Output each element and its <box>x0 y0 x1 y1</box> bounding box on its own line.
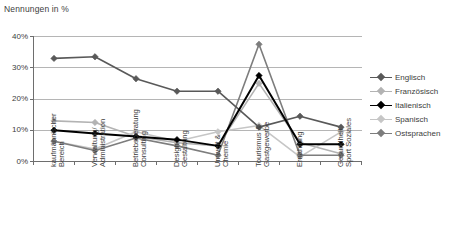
legend-diamond-marker-icon <box>377 129 385 137</box>
legend-diamond-marker-icon <box>377 115 385 123</box>
x-tick-label-line2: Chemie <box>222 134 230 167</box>
x-tick-label: BetriebsberatungConsulting <box>132 109 149 167</box>
chart-container: Nennungen in % 0%10%20%30%40% kaufmännis… <box>0 0 453 251</box>
legend-item-spanisch[interactable]: Spanisch <box>370 112 452 126</box>
legend-label: Englisch <box>392 73 425 82</box>
legend-diamond-marker-icon <box>377 101 385 109</box>
x-tick-label: kaufmännischerBereich <box>50 113 67 167</box>
legend-label: Italienisch <box>392 101 431 110</box>
x-tick-label-line2: Gastgewerbe <box>263 121 271 166</box>
x-tick-label-line1: Ernährung <box>296 131 304 166</box>
x-tick-label: Design/Gestaltung <box>173 130 190 167</box>
x-tick-label: Verwaltung/Administration <box>91 118 108 166</box>
legend-label: Französisch <box>392 87 438 96</box>
x-tick-label: Ernährung <box>296 131 304 166</box>
legend-item-französisch[interactable]: Französisch <box>370 84 452 98</box>
legend-swatch-icon <box>370 73 392 82</box>
legend-swatch-icon <box>370 101 392 110</box>
x-tick-label-line2: Sport Soziales <box>345 118 353 167</box>
x-tick-label-line2: Bereich <box>58 113 66 167</box>
legend-item-englisch[interactable]: Englisch <box>370 70 452 84</box>
x-tick-label-line2: Administration <box>99 118 107 166</box>
legend-label: Spanisch <box>392 115 428 124</box>
x-tick-label-line2: Consulting <box>140 109 148 167</box>
legend-diamond-marker-icon <box>377 87 385 95</box>
legend-diamond-marker-icon <box>377 73 385 81</box>
legend-item-ostsprachen[interactable]: Ostsprachen <box>370 126 452 140</box>
x-tick-label: GesundheitSport Soziales <box>337 118 354 167</box>
x-tick-label: Tourismus &Gastgewerbe <box>255 121 272 166</box>
legend-item-italienisch[interactable]: Italienisch <box>370 98 452 112</box>
legend-swatch-icon <box>370 115 392 124</box>
x-tick-label: Umwelt &Chemie <box>214 134 231 167</box>
chart-legend: EnglischFranzösischItalienischSpanischOs… <box>370 70 452 140</box>
x-tick-label-line2: Gestaltung <box>181 130 189 167</box>
legend-label: Ostsprachen <box>392 129 440 138</box>
legend-swatch-icon <box>370 129 392 138</box>
legend-swatch-icon <box>370 87 392 96</box>
